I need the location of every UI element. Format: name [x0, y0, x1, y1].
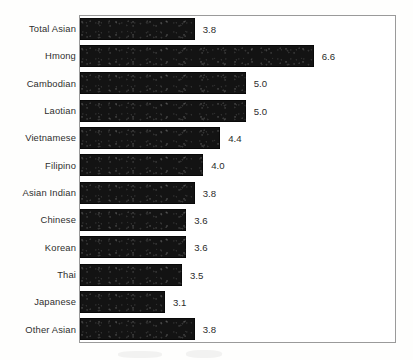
bar-row: Hmong6.6 — [0, 42, 413, 69]
value-label: 3.8 — [203, 187, 216, 198]
bar-fill — [80, 154, 203, 176]
value-label: 3.6 — [194, 214, 207, 225]
category-label: Laotian — [0, 105, 76, 116]
value-label: 3.5 — [190, 269, 203, 280]
category-label: Korean — [0, 242, 76, 253]
bar-row: Filipino4.0 — [0, 152, 413, 179]
value-label: 4.4 — [228, 132, 241, 143]
bar-fill — [80, 236, 186, 258]
value-label: 5.0 — [254, 105, 267, 116]
bar — [80, 100, 246, 122]
bar-row: Japanese3.1 — [0, 288, 413, 315]
bar-row: Cambodian5.0 — [0, 70, 413, 97]
bar — [80, 127, 220, 149]
value-label: 3.1 — [173, 296, 186, 307]
value-label: 4.0 — [211, 160, 224, 171]
bar — [80, 236, 186, 258]
value-label: 3.8 — [203, 23, 216, 34]
bar-row: Asian Indian3.8 — [0, 179, 413, 206]
category-label: Asian Indian — [0, 187, 76, 198]
bar-fill — [80, 209, 186, 231]
category-label: Total Asian — [0, 23, 76, 34]
category-label: Hmong — [0, 50, 76, 61]
bar — [80, 72, 246, 94]
bar — [80, 154, 203, 176]
bar — [80, 291, 165, 313]
bar — [80, 264, 182, 286]
category-label: Other Asian — [0, 324, 76, 335]
bar — [80, 18, 195, 40]
bar — [80, 318, 195, 340]
category-label: Cambodian — [0, 78, 76, 89]
value-label: 3.6 — [194, 242, 207, 253]
scanned-page: Total Asian3.8Hmong6.6Cambodian5.0Laotia… — [0, 0, 413, 360]
bar-fill — [80, 318, 195, 340]
bar-fill — [80, 100, 246, 122]
category-label: Filipino — [0, 160, 76, 171]
scan-artifact — [118, 351, 162, 358]
bar-fill — [80, 127, 220, 149]
value-label: 6.6 — [322, 50, 335, 61]
category-label: Thai — [0, 269, 76, 280]
bar — [80, 45, 314, 67]
bar — [80, 209, 186, 231]
bar — [80, 182, 195, 204]
category-label: Chinese — [0, 214, 76, 225]
bar-row: Thai3.5 — [0, 261, 413, 288]
bar-row: Chinese3.6 — [0, 206, 413, 233]
bar-row: Korean3.6 — [0, 234, 413, 261]
bar-row: Other Asian3.8 — [0, 316, 413, 343]
bar-fill — [80, 18, 195, 40]
value-label: 3.8 — [203, 324, 216, 335]
bar-chart-rows: Total Asian3.8Hmong6.6Cambodian5.0Laotia… — [0, 15, 413, 343]
bar-fill — [80, 182, 195, 204]
value-label: 5.0 — [254, 78, 267, 89]
bar-row: Total Asian3.8 — [0, 15, 413, 42]
bar-fill — [80, 45, 314, 67]
bar-fill — [80, 291, 165, 313]
category-label: Japanese — [0, 296, 76, 307]
category-label: Vietnamese — [0, 132, 76, 143]
scan-artifact — [186, 350, 222, 358]
bar-row: Vietnamese4.4 — [0, 124, 413, 151]
bar-fill — [80, 72, 246, 94]
bar-row: Laotian5.0 — [0, 97, 413, 124]
bar-fill — [80, 264, 182, 286]
